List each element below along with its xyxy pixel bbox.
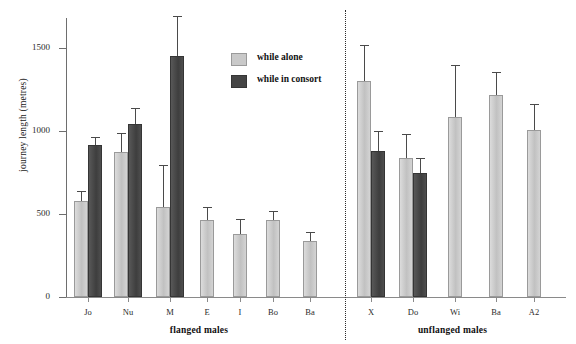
bar-X-alone bbox=[357, 81, 371, 297]
bar-M-alone bbox=[156, 207, 170, 297]
x-tick bbox=[207, 297, 208, 302]
bar-Wi-alone bbox=[448, 117, 462, 297]
x-axis-label-X: X bbox=[351, 308, 391, 317]
legend-swatch-consort bbox=[231, 75, 247, 88]
bar-Nu-consort bbox=[128, 124, 142, 297]
error-bar-cap bbox=[402, 134, 411, 135]
y-tick bbox=[59, 214, 67, 215]
x-tick bbox=[170, 297, 171, 302]
group-divider bbox=[345, 10, 346, 340]
bar-E-alone bbox=[200, 220, 214, 297]
group-title-flanged: flanged males bbox=[129, 325, 269, 335]
bar-X-consort bbox=[371, 151, 385, 297]
error-bar-stem bbox=[455, 65, 456, 116]
x-axis-label-M: M bbox=[150, 308, 190, 317]
error-bar-cap bbox=[530, 104, 539, 105]
error-bar-cap bbox=[117, 133, 126, 134]
x-tick bbox=[371, 297, 372, 302]
x-tick bbox=[128, 297, 129, 302]
y-tick-label: 1500 bbox=[14, 43, 50, 52]
x-tick bbox=[413, 297, 414, 302]
error-bar-stem bbox=[177, 16, 178, 56]
error-bar-cap bbox=[416, 158, 425, 159]
x-axis-label-Bo: Bo bbox=[253, 308, 293, 317]
legend-label-alone: while alone bbox=[257, 52, 303, 62]
error-bar-stem bbox=[310, 232, 311, 240]
bar-M-consort bbox=[170, 56, 184, 297]
bar-Bo-alone bbox=[266, 220, 280, 297]
error-bar-cap bbox=[306, 232, 315, 233]
bar-I-alone bbox=[233, 234, 247, 297]
y-tick-label: 500 bbox=[14, 209, 50, 218]
bar-chart: journey length (metres) 050010001500 JoN… bbox=[0, 0, 576, 344]
legend-swatch-alone bbox=[231, 53, 247, 66]
legend-label-consort: while in consort bbox=[257, 74, 321, 84]
x-axis-label-Ba: Ba bbox=[290, 308, 330, 317]
x-axis-label-A2: A2 bbox=[514, 308, 554, 317]
error-bar-stem bbox=[95, 137, 96, 145]
x-axis-label-Do: Do bbox=[393, 308, 433, 317]
x-axis-label-Ba: Ba bbox=[476, 308, 516, 317]
error-bar-cap bbox=[492, 72, 501, 73]
x-tick bbox=[496, 297, 497, 302]
error-bar-stem bbox=[163, 165, 164, 207]
error-bar-cap bbox=[374, 131, 383, 132]
error-bar-stem bbox=[534, 104, 535, 130]
x-axis-label-Nu: Nu bbox=[108, 308, 148, 317]
error-bar-cap bbox=[451, 65, 460, 66]
error-bar-stem bbox=[496, 72, 497, 95]
bar-Do-alone bbox=[399, 158, 413, 297]
error-bar-cap bbox=[203, 207, 212, 208]
x-axis-line bbox=[66, 297, 566, 298]
error-bar-stem bbox=[406, 134, 407, 158]
error-bar-stem bbox=[81, 191, 82, 201]
x-axis-label-Jo: Jo bbox=[68, 308, 108, 317]
error-bar-stem bbox=[207, 207, 208, 219]
error-bar-stem bbox=[364, 45, 365, 82]
error-bar-cap bbox=[91, 137, 100, 138]
error-bar-stem bbox=[135, 108, 136, 124]
y-axis-line bbox=[66, 18, 67, 298]
bar-Jo-consort bbox=[88, 145, 102, 297]
error-bar-stem bbox=[121, 133, 122, 152]
error-bar-cap bbox=[159, 165, 168, 166]
bar-A2-alone bbox=[527, 130, 541, 297]
y-axis-title: journey length (metres) bbox=[18, 40, 28, 210]
bar-Do-consort bbox=[413, 173, 427, 297]
x-tick bbox=[240, 297, 241, 302]
y-tick bbox=[59, 131, 67, 132]
error-bar-cap bbox=[269, 211, 278, 212]
x-axis-label-Wi: Wi bbox=[435, 308, 475, 317]
bar-Nu-alone bbox=[114, 152, 128, 297]
error-bar-cap bbox=[173, 16, 182, 17]
group-title-unflanged: unflanged males bbox=[383, 325, 523, 335]
bar-Jo-alone bbox=[74, 201, 88, 297]
x-tick bbox=[310, 297, 311, 302]
x-tick bbox=[534, 297, 535, 302]
x-tick bbox=[273, 297, 274, 302]
x-tick bbox=[455, 297, 456, 302]
error-bar-stem bbox=[378, 131, 379, 151]
error-bar-cap bbox=[236, 219, 245, 220]
error-bar-stem bbox=[273, 211, 274, 220]
error-bar-cap bbox=[131, 108, 140, 109]
error-bar-cap bbox=[77, 191, 86, 192]
y-tick-label: 0 bbox=[14, 292, 50, 301]
bar-Ba-alone bbox=[303, 241, 317, 297]
x-tick bbox=[88, 297, 89, 302]
error-bar-stem bbox=[240, 219, 241, 234]
error-bar-cap bbox=[360, 45, 369, 46]
y-tick bbox=[59, 48, 67, 49]
error-bar-stem bbox=[420, 158, 421, 173]
bar-Ba-alone bbox=[489, 95, 503, 297]
y-tick-label: 1000 bbox=[14, 126, 50, 135]
